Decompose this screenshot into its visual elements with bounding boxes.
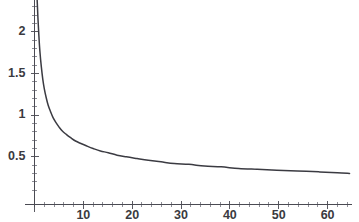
x-axis-tick-labels: 102030405060 <box>76 208 334 222</box>
y-tick-label: 2 <box>19 24 26 38</box>
decay-curve-chart: 0.511.52 102030405060 <box>0 0 359 222</box>
x-tick-label: 40 <box>223 208 237 222</box>
y-tick-label: 0.5 <box>8 149 25 163</box>
x-tick-label: 20 <box>125 208 139 222</box>
x-tick-label: 60 <box>321 208 335 222</box>
y-axis-tick-labels: 0.511.52 <box>8 24 25 163</box>
x-tick-label: 50 <box>272 208 286 222</box>
chart-plot-area: 0.511.52 102030405060 <box>0 0 359 222</box>
y-tick-label: 1 <box>19 107 26 121</box>
x-tick-label: 10 <box>76 208 90 222</box>
x-tick-label: 30 <box>174 208 188 222</box>
data-series-decay <box>36 0 350 174</box>
y-tick-label: 1.5 <box>8 66 25 80</box>
